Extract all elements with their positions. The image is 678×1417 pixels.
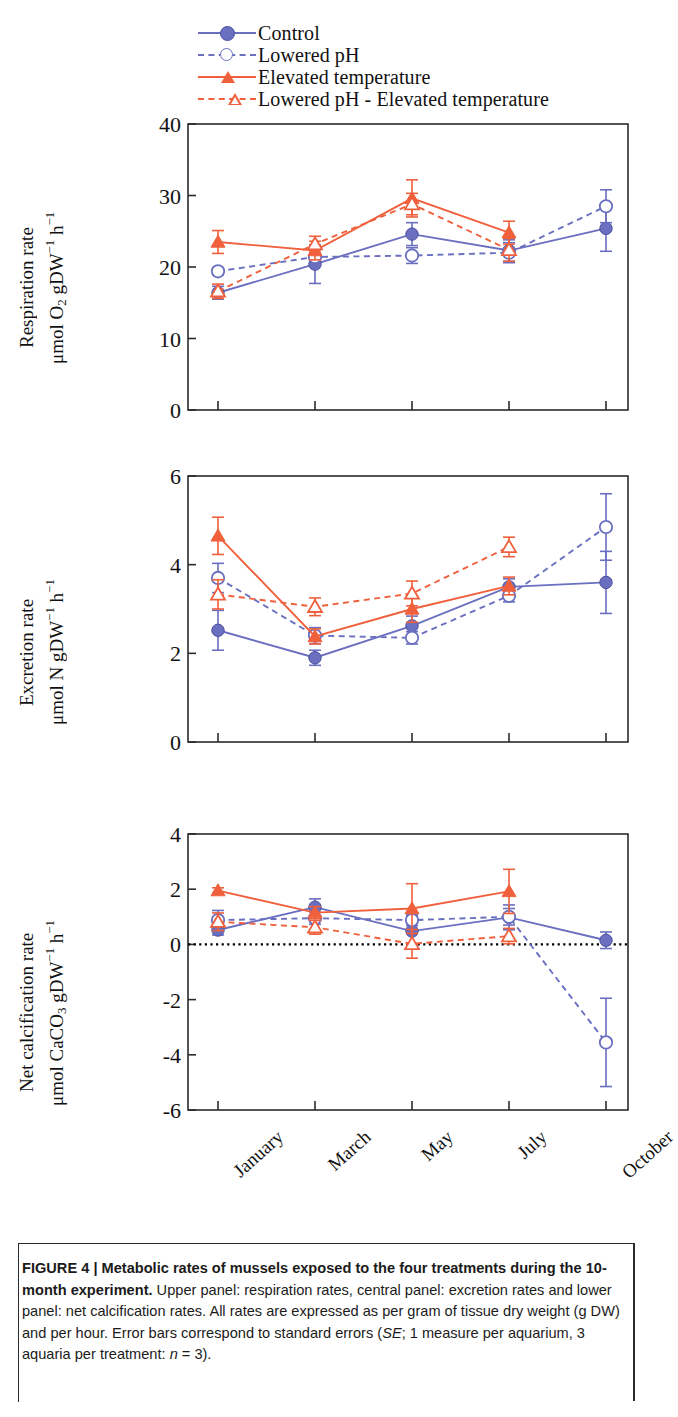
legend-key-lowered-ph [196,44,258,66]
figure-number: FIGURE 4 [22,1260,89,1276]
series-line [218,891,509,913]
y-tick-label: 2 [170,641,181,666]
legend-label-lowered-ph: Lowered pH [258,45,360,66]
data-point-marker [600,1036,612,1048]
y-tick-label: 20 [159,255,181,280]
legend-item-control: Control [196,22,616,44]
y-tick-label: 30 [159,184,181,209]
open-triangle-icon [228,93,242,105]
caption-end: = 3). [178,1346,212,1362]
caption-n: n [170,1346,178,1362]
series-line [218,536,509,637]
data-point-marker [309,652,321,664]
figure-separator: | [93,1260,97,1276]
y-tick-label: 6 [170,470,181,489]
caption-se: SE [382,1325,401,1341]
y-tick-label: 2 [170,877,181,902]
data-point-marker [600,934,612,946]
legend-label-elevated-temperature: Elevated temperature [258,67,430,88]
data-point-marker [502,929,516,941]
panel1-ylabel: Respiration rate [16,168,38,408]
panel2-svg: 0246 [150,470,632,770]
legend-key-elevated-temperature [196,66,258,88]
legend-item-lowered-ph: Lowered pH [196,44,616,66]
panel1-ylabel-units: μmol O2 gDW−1 h−1 [46,168,68,408]
open-circle-icon [220,48,233,61]
caption-border-right [633,1243,635,1401]
data-point-marker [406,249,418,261]
legend-label-lowered-ph-elevated-temperature: Lowered pH - Elevated temperature [258,89,549,110]
filled-triangle-icon [221,71,235,83]
y-tick-label: -2 [163,988,181,1013]
data-point-marker [600,200,612,212]
data-point-marker [600,222,612,234]
panel3-plot-area: -6-4-2024 [150,828,632,1138]
panel3-ylabel-units: μmol CaCO3 gDW−1 h−1 [46,885,68,1140]
data-point-marker [406,228,418,240]
data-point-marker [211,235,225,247]
y-tick-label: 0 [170,398,181,423]
y-tick-label: 40 [159,118,181,137]
legend-item-lowered-ph-elevated-temperature: Lowered pH - Elevated temperature [196,88,616,110]
panel1-plot-area: 010203040 [150,118,632,438]
filled-circle-icon [220,26,235,41]
panel2-ylabel: Excretion rate [16,545,38,760]
y-tick-label: -6 [163,1098,181,1123]
y-tick-label: -4 [163,1043,181,1068]
data-point-marker [212,265,224,277]
data-point-marker [600,521,612,533]
data-point-marker [406,632,418,644]
data-point-marker [308,237,322,249]
data-point-marker [211,884,225,896]
panel2-ylabel-units: μmol N gDW−1 h−1 [46,545,68,760]
y-tick-label: 0 [170,932,181,957]
panel1-svg: 010203040 [150,118,632,438]
figure-caption: FIGURE 4 | Metabolic rates of mussels ex… [22,1258,622,1366]
y-tick-label: 0 [170,730,181,755]
data-point-marker [502,885,516,897]
y-tick-label: 4 [170,828,181,847]
legend-label-control: Control [258,23,320,44]
series-line [218,922,509,944]
data-point-marker [600,576,612,588]
data-point-marker [405,587,419,599]
legend-key-lowered-ph-elevated-temperature [196,88,258,110]
y-tick-label: 4 [170,553,181,578]
legend-item-elevated-temperature: Elevated temperature [196,66,616,88]
chart-legend: Control Lowered pH Elevated temperature … [196,22,616,110]
panel3-ylabel: Net calcification rate [16,885,38,1140]
data-point-marker [212,624,224,636]
panel3-svg: -6-4-2024 [150,828,632,1138]
series-line [218,547,509,607]
data-point-marker [211,588,225,600]
data-point-marker [211,529,225,541]
legend-key-control [196,22,258,44]
data-point-marker [502,540,516,552]
y-tick-label: 10 [159,327,181,352]
panel2-plot-area: 0246 [150,470,632,770]
data-point-marker [308,600,322,612]
